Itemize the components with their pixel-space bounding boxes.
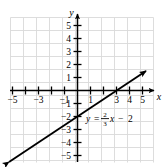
coordinate-plane: −5 −3 −1 1 3 4 5 5 4 3 2 1 −1 −2 −3 −4 −… xyxy=(0,0,166,167)
equation-constant: 2 xyxy=(128,114,133,124)
equation-denominator: 3 xyxy=(103,120,107,128)
equation-equals: = xyxy=(94,114,99,124)
y-tick-label: 3 xyxy=(66,47,71,57)
x-tick-label: 3 xyxy=(114,95,119,105)
x-tick-label: −5 xyxy=(7,95,17,105)
x-tick-label: −3 xyxy=(33,95,43,105)
graph-figure: −5 −3 −1 1 3 4 5 5 4 3 2 1 −1 −2 −3 −4 −… xyxy=(0,0,166,167)
y-tick-label: −2 xyxy=(61,112,71,122)
x-tick-label: 1 xyxy=(88,95,93,105)
y-axis-label: y xyxy=(68,7,74,18)
x-axis-label: x xyxy=(156,91,162,102)
y-tick-label: −1 xyxy=(61,99,71,109)
equation-numerator: 2 xyxy=(103,111,107,119)
y-tick-label: −5 xyxy=(61,151,71,161)
x-tick-label: 5 xyxy=(140,95,145,105)
y-tick-label: 5 xyxy=(66,21,71,31)
y-tick-label: 4 xyxy=(66,34,71,44)
x-tick-label: 4 xyxy=(127,95,132,105)
y-tick-label: −4 xyxy=(61,138,71,148)
y-tick-label: 2 xyxy=(66,60,71,70)
equation-label: y = 2 3 x − 2 xyxy=(85,111,133,128)
equation-variable: x xyxy=(109,114,115,124)
equation-minus: − xyxy=(118,114,123,124)
y-tick-label: 1 xyxy=(66,73,71,83)
equation-lhs: y xyxy=(85,114,91,124)
